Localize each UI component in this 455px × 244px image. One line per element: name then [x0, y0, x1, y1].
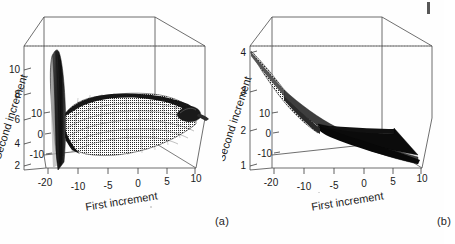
panel-a-xtick-minus5: -5	[104, 180, 113, 191]
panel-a-xtick-0: 0	[135, 178, 141, 189]
scan-speck	[318, 192, 320, 193]
panel-b: 4 3 2 1 10 0 -10 -20 -10 -5 0 5 10 Secon…	[222, 0, 444, 244]
panel-b-xaxis-label: First increment	[311, 189, 385, 212]
panel-a-xaxis-label: First increment	[85, 189, 159, 212]
panel-a-ztick-2: 2	[14, 160, 20, 171]
panel-b-ytick-10: 10	[259, 108, 271, 119]
panel-b-ztick-1: 1	[240, 160, 246, 171]
panel-a-plot: 10 8 6 4 2 10 0 -10 -20 -10 -5 0 5 10 Se…	[0, 0, 222, 244]
panel-b-ytick-0: 0	[265, 128, 271, 139]
panel-b-surface	[251, 51, 420, 164]
panel-a-ytick-0: 0	[37, 129, 43, 140]
panel-b-xtick-0: 0	[361, 178, 367, 189]
panel-b-xtick-10: 10	[416, 173, 428, 184]
scan-artifact-mark	[427, 2, 430, 14]
panel-a-xtick-minus20: -20	[38, 177, 53, 188]
panel-b-plot: 4 3 2 1 10 0 -10 -20 -10 -5 0 5 10 Secon…	[222, 0, 444, 244]
panel-b-ztick-4: 4	[240, 47, 246, 58]
panel-b-zaxis-label: Second increment	[222, 75, 254, 163]
panel-a: 10 8 6 4 2 10 0 -10 -20 -10 -5 0 5 10 Se…	[0, 0, 222, 244]
panel-b-caption: (b)	[222, 215, 455, 227]
panel-a-ztick-4: 4	[14, 138, 20, 149]
panel-a-ytick-10: 10	[31, 108, 43, 119]
scan-speck	[150, 206, 152, 208]
panel-b-xtick-minus10: -10	[297, 181, 312, 192]
panel-b-ytick-minus10: -10	[258, 148, 273, 159]
panel-a-xtick-minus10: -10	[71, 181, 86, 192]
panel-a-xtick-10: 10	[190, 173, 202, 184]
panel-b-xtick-5: 5	[390, 176, 396, 187]
panel-b-xtick-minus5: -5	[330, 180, 339, 191]
panel-b-xtick-minus20: -20	[264, 177, 279, 188]
panel-a-ytick-minus10: -10	[30, 149, 45, 160]
panel-a-xtick-5: 5	[164, 176, 170, 187]
panel-b-ztick-2: 2	[240, 125, 246, 136]
